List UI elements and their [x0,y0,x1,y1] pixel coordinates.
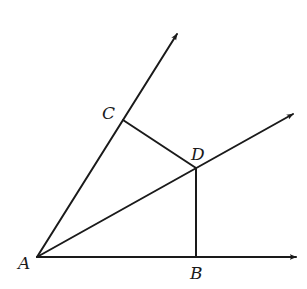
label-a: A [16,253,30,273]
ray-ac [37,34,177,257]
segment-cd [123,120,196,168]
ray-ad [37,114,293,257]
geometry-diagram: A B C D [0,0,307,289]
label-b: B [189,263,203,283]
label-d: D [190,144,205,164]
label-c: C [102,103,115,123]
